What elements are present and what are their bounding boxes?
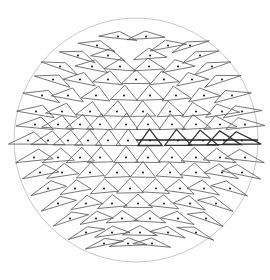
triangle-glyph <box>98 195 128 209</box>
glyph-center-dot <box>135 79 137 81</box>
triangle-glyph <box>225 149 264 162</box>
glyph-center-dot <box>34 124 36 126</box>
glyph-center-dot <box>163 79 165 81</box>
glyph-center-dot <box>203 188 205 190</box>
glyph-center-dot <box>171 157 173 159</box>
glyph-center-dot <box>155 188 157 190</box>
triangle-glyph <box>157 101 184 117</box>
glyph-center-dot <box>99 124 101 126</box>
triangle-glyph <box>138 129 162 146</box>
triangle-glyph <box>76 162 104 178</box>
glyph-center-dot <box>41 95 43 97</box>
triangle-glyph <box>31 131 65 145</box>
glyph-center-dot <box>125 157 127 159</box>
glyph-center-dot <box>57 157 59 159</box>
glyph-center-dot <box>167 232 169 234</box>
glyph-center-dot <box>163 203 165 205</box>
glyph-center-dot <box>103 243 105 245</box>
glyph-center-dot <box>145 36 147 38</box>
glyph-center-dot <box>195 157 197 159</box>
glyph-center-dot <box>125 124 127 126</box>
triangle-glyph <box>165 129 191 145</box>
glyph-center-dot <box>39 172 41 174</box>
triangle-glyph <box>156 162 183 178</box>
glyph-center-dot <box>107 140 109 142</box>
glyph-center-dot <box>219 124 221 126</box>
glyph-center-dot <box>59 66 61 68</box>
glyph-center-dot <box>67 140 69 142</box>
glyph-center-dot <box>74 188 76 190</box>
glyph-center-dot <box>147 124 149 126</box>
glyph-center-dot <box>205 218 207 220</box>
glyph-center-dot <box>61 172 63 174</box>
glyph-center-dot <box>129 188 131 190</box>
glyph-center-dot <box>33 157 35 159</box>
glyph-center-dot <box>47 188 49 190</box>
triangle-glyph <box>53 130 83 145</box>
glyph-center-dot <box>69 218 71 220</box>
glyph-center-dot <box>116 172 118 174</box>
glyph-center-dot <box>169 172 171 174</box>
triangle-glyph <box>42 148 74 163</box>
triangle-glyph <box>136 146 161 162</box>
glyph-center-dot <box>175 95 177 97</box>
glyph-center-dot <box>189 203 191 205</box>
triangle-glyph <box>223 132 261 144</box>
glyph-center-dot <box>89 172 91 174</box>
triangle-glyph <box>134 58 165 71</box>
triangle-glyph <box>134 48 168 59</box>
glyph-center-dot <box>203 95 205 97</box>
glyph-center-dot <box>116 111 118 113</box>
glyph-center-dot <box>79 124 81 126</box>
glyph-center-dot <box>167 45 169 47</box>
glyph-center-dot <box>199 55 201 57</box>
glyph-center-dot <box>79 157 81 159</box>
glyph-center-dot <box>127 243 129 245</box>
glyph-center-dot <box>111 232 113 234</box>
triangle-glyph <box>71 195 103 209</box>
glyph-center-dot <box>179 188 181 190</box>
triangle-glyph <box>182 102 212 117</box>
glyph-center-dot <box>103 188 105 190</box>
glyph-center-dot <box>47 140 49 142</box>
glyph-center-dot <box>35 111 37 113</box>
glyph-center-dot <box>85 232 87 234</box>
triangle-glyph <box>136 113 161 129</box>
glyph-center-dot <box>195 232 197 234</box>
triangle-glyph <box>150 71 180 85</box>
orientation-glyph-diagram <box>0 0 270 280</box>
triangle-glyph <box>205 75 241 87</box>
glyph-center-dot <box>177 218 179 220</box>
glyph-center-dot <box>171 124 173 126</box>
glyph-center-dot <box>77 55 79 57</box>
glyph-center-dot <box>195 172 197 174</box>
glyph-center-dot <box>241 111 243 113</box>
glyph-center-dot <box>107 55 109 57</box>
glyph-center-dot <box>195 124 197 126</box>
triangle-glyph <box>177 227 214 240</box>
glyph-center-dot <box>107 79 109 81</box>
triangle-glyph <box>204 116 237 130</box>
glyph-center-dot <box>99 157 101 159</box>
triangle-glyph <box>214 91 251 103</box>
glyph-center-dot <box>96 45 98 47</box>
triangle-glyph <box>162 86 191 101</box>
triangle-glyph <box>110 85 137 100</box>
glyph-center-dot <box>91 66 93 68</box>
glyph-center-dot <box>119 66 121 68</box>
glyph-center-dot <box>244 157 246 159</box>
glyph-center-dot <box>111 203 113 205</box>
glyph-center-dot <box>151 243 153 245</box>
glyph-center-dot <box>191 79 193 81</box>
triangle-glyph <box>104 162 130 178</box>
glyph-center-dot <box>79 79 81 81</box>
glyph-center-dot <box>169 111 171 113</box>
glyph-center-dot <box>149 55 151 57</box>
glyph-center-dot <box>147 157 149 159</box>
glyph-center-dot <box>139 232 141 234</box>
glyph-center-dot <box>241 172 243 174</box>
triangle-glyph <box>137 85 164 100</box>
triangle-glyph <box>130 162 156 178</box>
glyph-center-dot <box>95 95 97 97</box>
glyph-center-dot <box>221 79 223 81</box>
